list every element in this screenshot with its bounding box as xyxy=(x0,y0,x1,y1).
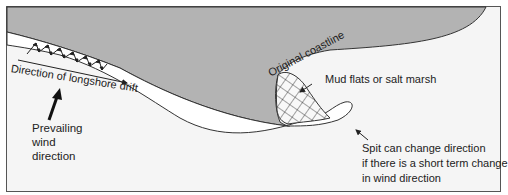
mud-flats-area xyxy=(276,72,330,124)
wind-label-line2: wind xyxy=(32,135,56,149)
spit-label-line1: Spit can change direction xyxy=(362,141,486,156)
spit-label-line3: in wind direction xyxy=(362,171,441,186)
spit-label-line2: if there is a short term change xyxy=(362,156,508,171)
wind-arrowhead-icon xyxy=(52,88,62,100)
spit-pointer xyxy=(356,130,368,140)
mud-flats-label: Mud flats or salt marsh xyxy=(325,73,436,85)
wind-label-line1: Prevailing xyxy=(32,121,83,135)
land-mass xyxy=(7,7,486,126)
wind-label-line3: direction xyxy=(32,149,75,163)
